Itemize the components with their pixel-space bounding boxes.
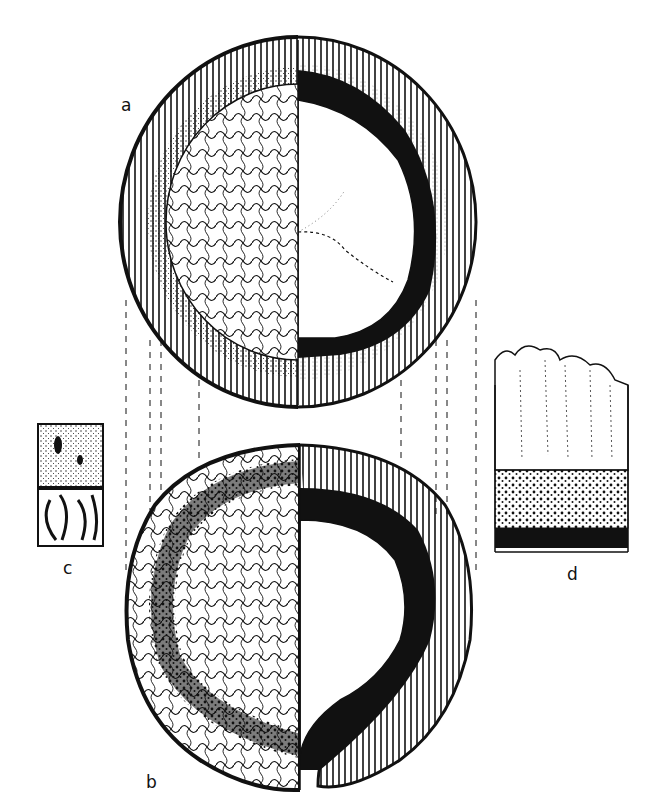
panel-c-inset [38,424,103,546]
panel-b-figure [127,445,472,790]
panel-label-d: d [567,564,578,584]
panel-label-b: b [146,772,157,792]
panel-a-figure [120,37,476,407]
illustration-canvas [0,0,661,806]
panel-label-c: c [63,558,72,578]
panel-d-column [495,346,628,552]
panel-label-a: a [121,95,131,115]
